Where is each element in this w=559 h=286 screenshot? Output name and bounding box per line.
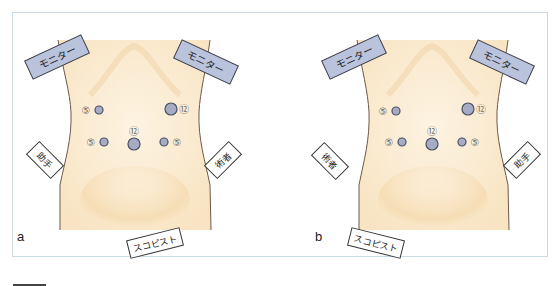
- port-size-label: ⑤: [87, 137, 96, 148]
- role-left-a: 助手: [27, 142, 64, 179]
- port-size-label: ⑫: [427, 126, 437, 137]
- role-right-a: 術者: [205, 142, 242, 179]
- torso-a: [58, 40, 211, 234]
- role-left-b: 術者: [312, 143, 349, 180]
- port-size-label: ⑤: [385, 137, 394, 148]
- torso-b: [357, 40, 509, 234]
- role-right-b: 助手: [504, 142, 541, 179]
- panel-label-a: a: [17, 229, 24, 244]
- port-placement-diagram: モニター モニター ⑤ ⑫ ⑤ ⑫: [0, 0, 559, 286]
- panel-a: モニター モニター ⑤ ⑫ ⑤ ⑫: [25, 35, 242, 258]
- port-size-label: ⑫: [129, 126, 139, 137]
- panel-b: モニター モニター ⑤ ⑫ ⑤ ⑫ ⑤: [312, 35, 541, 258]
- scopist-b: スコピスト: [348, 228, 405, 259]
- port-size-label: ⑫: [476, 104, 486, 115]
- port-size-label: ⑤: [173, 137, 182, 148]
- panel-label-b: b: [315, 229, 322, 244]
- port-size-label: ⑤: [379, 106, 388, 117]
- port-size-label: ⑫: [179, 104, 189, 115]
- port-size-label: ⑤: [471, 137, 480, 148]
- port-size-label: ⑤: [82, 105, 91, 116]
